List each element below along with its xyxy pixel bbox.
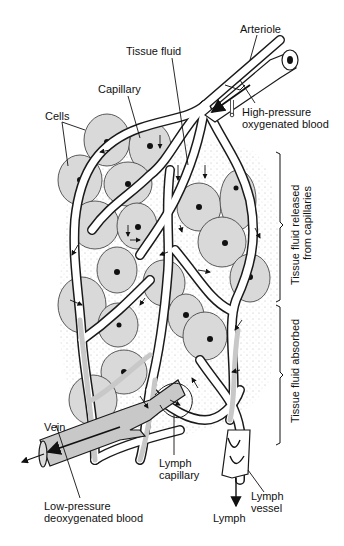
label-tissue-fluid-absorbed: Tissue fluid absorbed xyxy=(289,319,301,423)
cell xyxy=(183,312,227,360)
label-cells: Cells xyxy=(45,110,69,122)
cells-leader-1 xyxy=(62,122,85,130)
label-high-pressure-line2: oxygenated blood xyxy=(242,118,329,130)
label-tissue-fluid-released-line1: Tissue fluid released xyxy=(289,185,301,285)
label-lymph-vessel-line1: Lymph xyxy=(251,490,284,502)
label-lymph-capillary-line1: Lymph xyxy=(159,457,192,469)
label-lymph-capillary-line2: capillary xyxy=(159,469,199,481)
label-low-pressure-line2: deoxygenated blood xyxy=(44,512,143,524)
label-low-pressure-line1: Low-pressure xyxy=(44,500,111,512)
label-vein: Vein xyxy=(44,421,65,433)
absorbed-brace xyxy=(276,305,283,445)
label-lymph-vessel-line2: vessel xyxy=(251,502,282,514)
cells-leader-2 xyxy=(62,122,68,166)
lymph-vessel-leader xyxy=(248,470,264,492)
label-tissue-fluid: Tissue fluid xyxy=(126,45,181,57)
arteriole-lumen xyxy=(287,56,293,64)
label-high-pressure-line1: High-pressure xyxy=(242,106,311,118)
label-lymph: Lymph xyxy=(213,512,246,524)
label-arteriole: Arteriole xyxy=(240,23,281,35)
label-tissue-fluid-released-line2: from capillaries xyxy=(301,186,313,260)
label-capillary: Capillary xyxy=(98,83,141,95)
